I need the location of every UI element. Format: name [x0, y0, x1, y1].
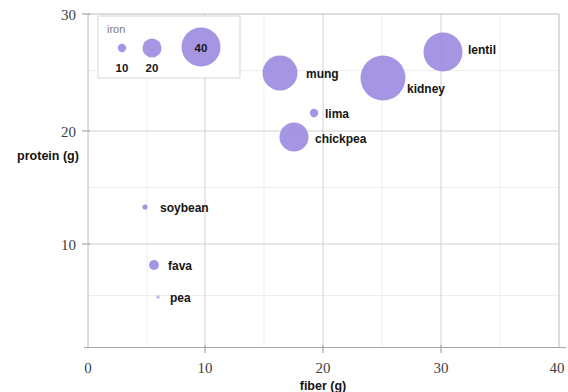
label-mung: mung [306, 67, 339, 81]
legend-size-label-10: 10 [116, 62, 129, 74]
legend-bubble-20 [143, 39, 162, 58]
bubble-fava[interactable] [149, 260, 159, 270]
x-tick-label-0: 0 [84, 360, 92, 376]
bubble-soybean[interactable] [142, 204, 147, 209]
bubble-pea[interactable] [156, 295, 159, 298]
legend-bubble-10 [118, 44, 126, 52]
bubble-mung[interactable] [263, 56, 298, 91]
bubble-lima[interactable] [310, 109, 318, 117]
bubble-chickpea[interactable] [280, 123, 309, 152]
y-tick-label-20: 20 [61, 124, 76, 140]
x-tick-label-40: 40 [550, 360, 565, 376]
x-tick-label-30: 30 [434, 360, 449, 376]
y-axis-title: protein (g) [17, 149, 79, 163]
bubble-kidney[interactable] [361, 56, 406, 101]
bubble-lentil[interactable] [424, 33, 463, 72]
label-chickpea: chickpea [315, 132, 367, 146]
label-fava: fava [168, 259, 192, 273]
label-pea: pea [170, 291, 191, 305]
label-lima: lima [325, 107, 349, 121]
y-tick-label-30: 30 [61, 7, 76, 23]
legend-bubble-40-value: 40 [195, 42, 208, 54]
x-axis-title: fiber (g) [300, 379, 347, 392]
label-lentil: lentil [468, 43, 496, 57]
legend-size-label-20: 20 [146, 62, 159, 74]
label-soybean: soybean [160, 201, 209, 215]
chart-canvas: 30 20 10 0 10 20 30 40 protein (g) fiber… [0, 0, 568, 392]
x-tick-label-20: 20 [316, 360, 331, 376]
label-kidney: kidney [407, 82, 445, 96]
bubble-chart: 30 20 10 0 10 20 30 40 protein (g) fiber… [0, 0, 568, 392]
size-legend[interactable]: iron 40 10 20 [98, 16, 240, 78]
y-tick-label-10: 10 [61, 237, 76, 253]
x-tick-label-10: 10 [198, 360, 213, 376]
legend-title: iron [107, 23, 125, 35]
